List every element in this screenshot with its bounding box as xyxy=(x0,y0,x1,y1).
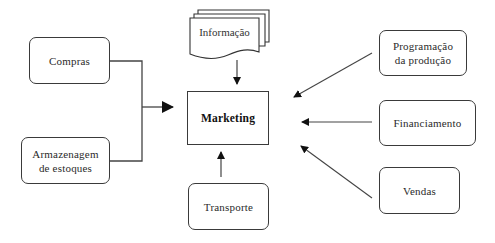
arrow-vendas xyxy=(301,146,372,198)
financiamento-label: Financiamento xyxy=(394,116,462,130)
armazenagem-label: Armazenagem de estoques xyxy=(32,147,98,175)
armazenagem-box: Armazenagem de estoques xyxy=(21,137,110,184)
informacao-label: Informação xyxy=(190,26,259,38)
transporte-box: Transporte xyxy=(188,183,269,230)
transporte-label: Transporte xyxy=(204,200,253,214)
programacao-label: Programação da produção xyxy=(393,39,453,67)
financiamento-box: Financiamento xyxy=(379,100,476,146)
vendas-box: Vendas xyxy=(379,167,460,214)
marketing-box: Marketing xyxy=(187,91,269,145)
marketing-label: Marketing xyxy=(201,111,255,125)
left-merge-connector xyxy=(110,61,173,161)
compras-box: Compras xyxy=(29,37,110,84)
arrow-programacao xyxy=(294,53,372,97)
vendas-label: Vendas xyxy=(403,184,436,198)
programacao-box: Programação da produção xyxy=(379,30,467,76)
compras-label: Compras xyxy=(49,54,90,68)
